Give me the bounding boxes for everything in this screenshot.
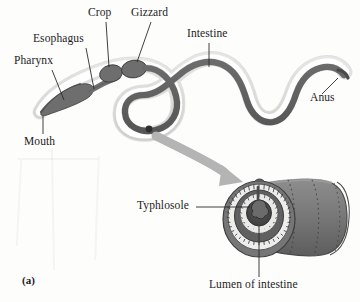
label-crop: Crop [88,7,111,19]
label-anus: Anus [310,92,335,104]
panel-letter: (a) [22,274,35,286]
magnify-arrow-icon [156,136,243,186]
label-lumen-of-intestine: Lumen of intestine [209,279,298,291]
intestine-cross-section [223,179,349,257]
earthworm-digestive-figure: Pharynx Esophagus Crop Gizzard Intestine… [0,0,360,302]
label-pharynx: Pharynx [14,55,53,67]
figure-illustration [0,0,360,302]
label-intestine: Intestine [187,28,228,40]
label-typhlosole: Typhlosole [137,200,189,212]
label-mouth: Mouth [24,136,55,148]
label-gizzard: Gizzard [131,7,168,19]
label-esophagus: Esophagus [33,33,84,45]
callout-origin-dot [146,126,153,133]
leader-gizzard [137,22,151,62]
